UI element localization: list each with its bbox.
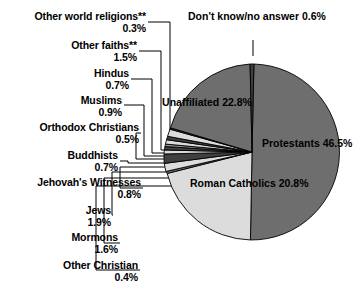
- slice-label-protestants: Protestants 46.5%: [262, 137, 346, 149]
- callout-dont-know-no-answer: Don't know/no answer 0.6%: [188, 10, 320, 22]
- callout-mormons-value: 1.6%: [0, 243, 118, 255]
- pie-slice-protestants: [250, 64, 339, 240]
- slice-label-unaffiliated: Unaffiliated 22.8%: [152, 96, 262, 108]
- callout-other-christian-value: 0.4%: [0, 271, 138, 283]
- callout-orthodox-christians-name: Orthodox Christians: [0, 121, 139, 133]
- callout-other-world-religions-value: 0.3%: [0, 22, 146, 34]
- callout-other-christian-name: Other Christian: [0, 259, 138, 271]
- callout-other-world-religions: Other world religions** 0.3%: [0, 10, 146, 34]
- callout-other-christian: Other Christian 0.4%: [0, 259, 138, 283]
- callout-orthodox-christians-value: 0.5%: [0, 133, 139, 145]
- callout-jews-name: Jews: [0, 204, 111, 216]
- callout-other-world-religions-name: Other world religions**: [0, 10, 146, 22]
- callout-muslims-name: Muslims: [0, 94, 122, 106]
- callout-muslims: Muslims 0.9%: [0, 94, 122, 118]
- slice-label-roman-catholics-name2: Catholics: [229, 177, 276, 189]
- callout-dont-know-no-answer-value: 0.6%: [302, 10, 326, 22]
- pie-chart-figure: Don't know/no answer 0.6% Unaffiliated 2…: [0, 0, 355, 299]
- callout-jehovahs-witnesses: Jehovah's Witnesses 0.8%: [0, 176, 141, 200]
- slice-label-unaffiliated-value: 22.8%: [222, 96, 252, 108]
- callout-orthodox-christians: Orthodox Christians 0.5%: [0, 121, 139, 145]
- callout-hindus-name: Hindus: [0, 67, 129, 79]
- slice-label-roman-catholics-name: Roman: [190, 177, 226, 189]
- slice-label-protestants-value: 46.5%: [323, 137, 353, 149]
- callout-mormons: Mormons 1.6%: [0, 231, 118, 255]
- slice-label-protestants-name: Protestants: [262, 137, 320, 149]
- callout-dont-know-no-answer-name: Don't know/no answer: [188, 10, 299, 22]
- callout-muslims-value: 0.9%: [0, 106, 122, 118]
- callout-other-faiths-name: Other faiths**: [0, 39, 137, 51]
- callout-hindus: Hindus 0.7%: [0, 67, 129, 91]
- callout-buddhists-value: 0.7%: [0, 161, 118, 173]
- callout-buddhists: Buddhists 0.7%: [0, 149, 118, 173]
- callout-other-faiths-value: 1.5%: [0, 51, 137, 63]
- callout-hindus-value: 0.7%: [0, 79, 129, 91]
- callout-jehovahs-witnesses-value: 0.8%: [0, 188, 141, 200]
- callout-jehovahs-witnesses-name: Jehovah's Witnesses: [0, 176, 141, 188]
- callout-jews-value: 1.9%: [0, 216, 111, 228]
- callout-other-faiths: Other faiths** 1.5%: [0, 39, 137, 63]
- slice-label-roman-catholics: Roman Catholics 20.8%: [190, 177, 268, 189]
- pie-slices: [164, 64, 339, 240]
- callout-jews: Jews 1.9%: [0, 204, 111, 228]
- callout-mormons-name: Mormons: [0, 231, 118, 243]
- slice-label-unaffiliated-name: Unaffiliated: [162, 96, 219, 108]
- callout-buddhists-name: Buddhists: [0, 149, 118, 161]
- slice-label-roman-catholics-value: 20.8%: [279, 177, 309, 189]
